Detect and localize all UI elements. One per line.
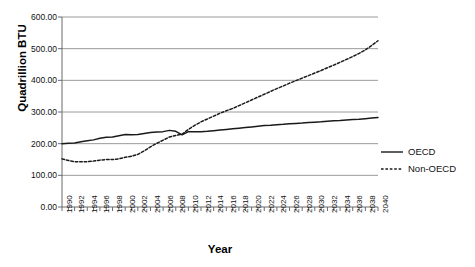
x-axis-tick: 2030 — [318, 195, 326, 213]
legend-swatch-dotted-icon — [381, 164, 403, 174]
x-axis-tick: 2022 — [268, 195, 276, 213]
x-axis-tick: 2028 — [306, 195, 314, 213]
x-axis-tick: 2000 — [129, 195, 137, 213]
x-axis-tick: 2012 — [205, 195, 213, 213]
x-axis-tick: 2032 — [331, 195, 339, 213]
x-axis-tick-labels: 1990199219941996199820002002200420062008… — [0, 0, 475, 267]
x-axis-title: Year — [62, 243, 378, 255]
legend-label-oecd: OECD — [408, 146, 435, 157]
legend-swatch-solid-icon — [381, 147, 403, 157]
x-axis-tick: 1990 — [66, 195, 74, 213]
x-axis-tick: 1992 — [78, 195, 86, 213]
x-axis-tick: 2014 — [217, 195, 225, 213]
x-axis-tick: 1996 — [103, 195, 111, 213]
legend-item-oecd: OECD — [381, 143, 456, 160]
legend-label-non-oecd: Non-OECD — [408, 163, 456, 174]
x-axis-tick: 2002 — [141, 195, 149, 213]
x-axis-tick: 2024 — [280, 195, 288, 213]
x-axis-tick: 2034 — [344, 195, 352, 213]
x-axis-tick: 1998 — [116, 195, 124, 213]
x-axis-tick: 2018 — [242, 195, 250, 213]
x-axis-tick: 2020 — [255, 195, 263, 213]
x-axis-tick: 2004 — [154, 195, 162, 213]
x-axis-tick: 2040 — [382, 195, 390, 213]
x-axis-tick: 1994 — [91, 195, 99, 213]
x-axis-tick: 2016 — [230, 195, 238, 213]
x-axis-tick: 2008 — [179, 195, 187, 213]
x-axis-tick: 2010 — [192, 195, 200, 213]
line-chart: Quadrillion BTU 0.00100.00200.00300.0040… — [0, 0, 475, 267]
legend-item-non-oecd: Non-OECD — [381, 160, 456, 177]
chart-legend: OECD Non-OECD — [381, 143, 456, 177]
x-axis-tick: 2026 — [293, 195, 301, 213]
x-axis-tick: 2036 — [356, 195, 364, 213]
x-axis-tick: 2006 — [167, 195, 175, 213]
x-axis-tick: 2038 — [369, 195, 377, 213]
